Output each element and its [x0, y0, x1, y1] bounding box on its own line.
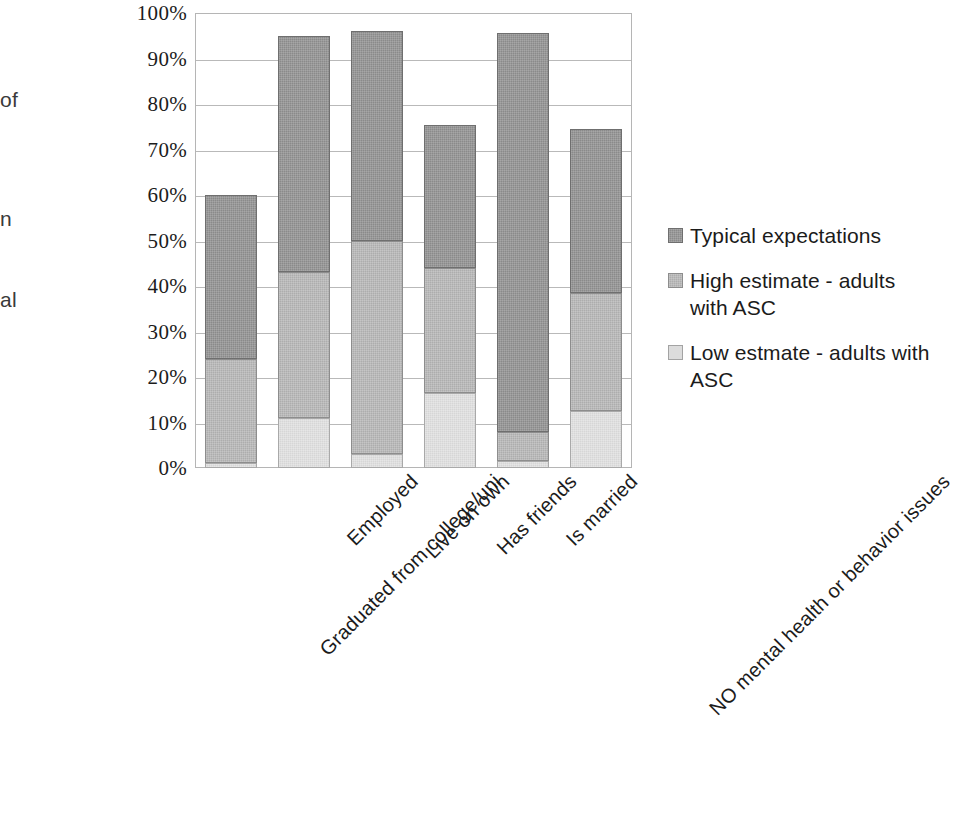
- bar-group[interactable]: [570, 13, 622, 468]
- y-axis-tick-label: 50%: [148, 228, 187, 253]
- chart-legend: Typical expectationsHigh estimate - adul…: [668, 222, 930, 411]
- y-axis-tick-label: 60%: [148, 183, 187, 208]
- bar-segment-high[interactable]: [205, 359, 257, 464]
- bar-segment-low[interactable]: [351, 454, 403, 468]
- legend-swatch-icon: [668, 273, 683, 288]
- bar-group[interactable]: [351, 13, 403, 468]
- y-axis: 100%90%80%70%60%50%40%30%20%10%0%: [105, 13, 187, 468]
- bar-segment-typical[interactable]: [351, 31, 403, 240]
- legend-item-label: Low estmate - adults with ASC: [690, 339, 930, 393]
- y-axis-tick-label: 30%: [148, 319, 187, 344]
- legend-item[interactable]: Typical expectations: [668, 222, 930, 249]
- bars-layer: [195, 13, 632, 468]
- bar-group[interactable]: [278, 13, 330, 468]
- y-axis-tick-label: 40%: [148, 274, 187, 299]
- legend-item[interactable]: High estimate - adults with ASC: [668, 267, 930, 321]
- y-axis-tick-label: 10%: [148, 410, 187, 435]
- bar-segment-low[interactable]: [497, 461, 549, 468]
- bar-segment-low[interactable]: [205, 463, 257, 468]
- legend-swatch-icon: [668, 345, 683, 360]
- bar-segment-typical[interactable]: [278, 36, 330, 273]
- legend-item[interactable]: Low estmate - adults with ASC: [668, 339, 930, 393]
- legend-item-label: Typical expectations: [690, 222, 881, 249]
- bar-segment-high[interactable]: [351, 241, 403, 455]
- y-axis-tick-label: 100%: [137, 1, 187, 26]
- bar-segment-typical[interactable]: [497, 33, 549, 431]
- bar-group[interactable]: [205, 13, 257, 468]
- legend-swatch-icon: [668, 228, 683, 243]
- bar-segment-low[interactable]: [570, 411, 622, 468]
- x-axis-tick-label: NO mental health or behavior issues: [704, 470, 954, 720]
- bar-segment-typical[interactable]: [424, 125, 476, 268]
- x-axis-tick-label: Employed: [343, 470, 423, 550]
- bar-group[interactable]: [497, 13, 549, 468]
- y-axis-tick-label: 0%: [158, 456, 187, 481]
- bar-segment-low[interactable]: [278, 418, 330, 468]
- bar-segment-high[interactable]: [570, 293, 622, 411]
- y-axis-tick-label: 90%: [148, 46, 187, 71]
- bar-segment-high[interactable]: [278, 272, 330, 418]
- y-axis-tick-label: 20%: [148, 365, 187, 390]
- bar-group[interactable]: [424, 13, 476, 468]
- x-axis: Graduated from college/uniEmployedLive o…: [195, 470, 755, 790]
- bar-segment-high[interactable]: [497, 432, 549, 462]
- bar-segment-low[interactable]: [424, 393, 476, 468]
- legend-item-label: High estimate - adults with ASC: [690, 267, 930, 321]
- bar-segment-typical[interactable]: [570, 129, 622, 293]
- bar-segment-typical[interactable]: [205, 195, 257, 359]
- y-axis-tick-label: 80%: [148, 92, 187, 117]
- bar-segment-high[interactable]: [424, 268, 476, 393]
- y-axis-tick-label: 70%: [148, 137, 187, 162]
